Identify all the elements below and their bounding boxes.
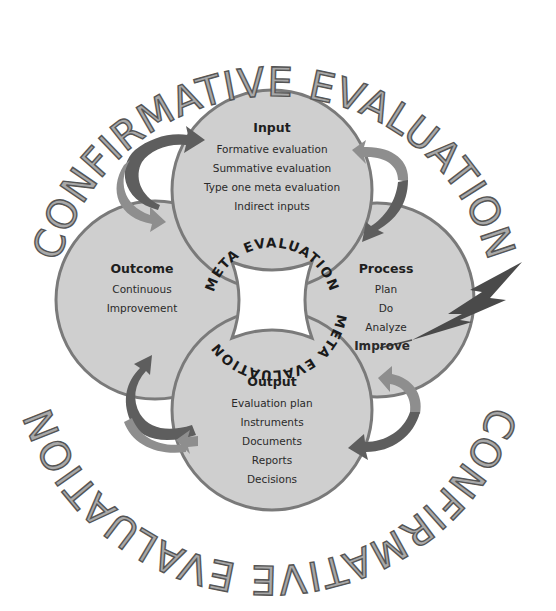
input-item: Formative evaluation (216, 143, 327, 155)
input-item: Summative evaluation (213, 162, 331, 174)
output-item: Decisions (247, 473, 297, 485)
process-title: Process (359, 261, 414, 276)
process-item: Analyze (365, 321, 406, 333)
outcome-node: Outcome Continuous Improvement (107, 261, 178, 314)
process-highlight-item: Improve (354, 339, 410, 353)
output-title: Output (247, 374, 296, 389)
outcome-item: Continuous (112, 283, 171, 295)
outcome-item: Improvement (107, 302, 178, 314)
input-item: Type one meta evaluation (203, 181, 340, 193)
output-item: Evaluation plan (231, 397, 312, 409)
outcome-title: Outcome (110, 261, 173, 276)
confirmative-evaluation-diagram: CONFIRMATIVE EVALUATION CONFIRMATIVE EVA… (0, 0, 556, 611)
process-item: Plan (375, 283, 397, 295)
process-item: Do (379, 302, 394, 314)
input-item: Indirect inputs (234, 200, 310, 212)
output-item: Documents (242, 435, 302, 447)
center-hole (232, 262, 312, 338)
input-title: Input (253, 120, 290, 135)
output-item: Instruments (240, 416, 303, 428)
output-item: Reports (252, 454, 292, 466)
diagram-canvas: CONFIRMATIVE EVALUATION CONFIRMATIVE EVA… (0, 0, 556, 611)
